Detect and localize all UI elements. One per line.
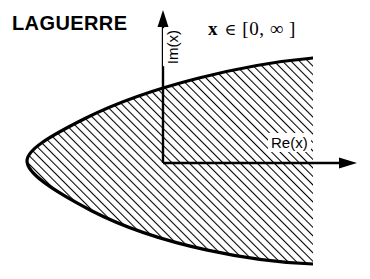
hatched-region xyxy=(27,58,313,264)
region-fill xyxy=(27,58,313,264)
domain-expression: x∈[0, ∞ ] xyxy=(208,18,296,40)
figure-title: LAGUERRE xyxy=(12,12,127,35)
membership-symbol: ∈ xyxy=(225,20,237,39)
imaginary-axis-arrowhead xyxy=(158,10,169,27)
domain-interval: [0, ∞ ] xyxy=(242,18,295,39)
imaginary-axis-label: Im(x) xyxy=(163,28,182,66)
real-axis-label: Re(x) xyxy=(268,133,311,152)
domain-variable: x xyxy=(208,18,218,39)
laguerre-region-figure: LAGUERRE x∈[0, ∞ ] Im(x) Re(x) xyxy=(0,0,370,279)
diagram-canvas xyxy=(0,0,370,279)
real-axis-arrowhead xyxy=(339,158,357,169)
